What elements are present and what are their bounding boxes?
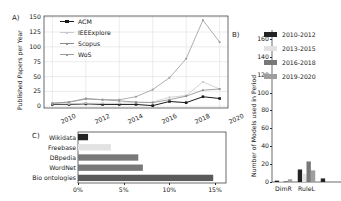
panel-c-tick-mark — [78, 183, 79, 185]
panel-c-x-tick: 15% — [203, 186, 227, 193]
panel-c-x-tick: 5% — [112, 186, 136, 193]
panel-a-y-tick: 50 — [24, 73, 41, 80]
panel-c-bar-chart: C) WikidataFreebaseDBpediaWordNetBio ont… — [0, 126, 232, 201]
panel-a-legend-label: WoS — [78, 51, 91, 58]
panel-b-tick-mark — [270, 146, 272, 147]
panel-b-tick-mark — [270, 39, 272, 40]
panel-b-y-tick: 140 — [252, 53, 269, 60]
panel-b-y-tick: 60 — [252, 124, 269, 131]
panel-a-line-chart: A) Published Papers per Year 02550751001… — [0, 0, 232, 128]
panel-b-y-tick: 100 — [252, 89, 269, 96]
panel-b-legend-swatch — [264, 74, 277, 79]
panel-c-tick-mark — [215, 183, 216, 185]
panel-c-category-label: WordNet — [2, 164, 76, 171]
panel-b-tick-mark — [270, 164, 272, 165]
panel-c-category-label: Bio ontologies — [2, 174, 76, 181]
panel-b-y-tick: 80 — [252, 106, 269, 113]
panel-a-y-axis-title: Published Papers per Year — [16, 30, 23, 110]
panel-a-legend-label: ACM — [78, 18, 92, 25]
panel-a-y-tick: 0 — [24, 102, 41, 109]
panel-c-category-label: Freebase — [2, 144, 76, 151]
panel-b-tick-mark — [270, 128, 272, 129]
panel-b-y-tick: 20 — [252, 160, 269, 167]
panel-b-legend-label: 2016-2018 — [282, 59, 316, 66]
panel-a-legend-label: IEEExplore — [78, 29, 111, 36]
panel-a-y-tick: 125 — [24, 28, 41, 35]
panel-b-tick-mark — [270, 93, 272, 94]
panel-a-legend-marker — [65, 20, 68, 23]
panel-a-legend-marker — [66, 43, 68, 45]
panel-b-legend-label: 2010-2012 — [282, 31, 316, 38]
panel-a-y-tick: 100 — [24, 43, 41, 50]
panel-b-tick-mark — [270, 57, 272, 58]
panel-b-tick-mark — [270, 110, 272, 111]
panel-c-category-label: Wikidata — [2, 134, 76, 141]
panel-b-tick-mark — [270, 182, 272, 183]
panel-c-tick-mark — [124, 183, 125, 185]
panel-c-category-label: DBpedia — [2, 154, 76, 161]
panel-b-legend-swatch — [264, 32, 277, 37]
panel-b-legend-swatch — [264, 46, 277, 51]
panel-a-label: A) — [12, 14, 20, 22]
panel-c-x-tick: 10% — [157, 186, 181, 193]
panel-a-legend-marker — [66, 54, 68, 56]
panel-b-legend-label: 2013-2015 — [282, 45, 316, 52]
panel-a-y-tick: 75 — [24, 58, 41, 65]
panel-b-legend-label: 2019-2020 — [282, 73, 316, 80]
panel-c-tick-mark — [169, 183, 170, 185]
panel-c-x-tick: 0% — [66, 186, 90, 193]
panel-b-legend-swatch — [264, 60, 277, 65]
panel-b-x-tick: RuleL — [293, 185, 321, 192]
panel-a-legend-marker — [66, 32, 68, 34]
panel-a-y-tick: 25 — [24, 87, 41, 94]
panel-a-y-tick: 150 — [24, 13, 41, 20]
panel-b-label: B) — [232, 31, 240, 39]
panel-b-y-tick: 0 — [252, 178, 269, 185]
panel-b-bar-chart: B) Number of Models used in Period 02040… — [228, 0, 341, 201]
figure-canvas: A) Published Papers per Year 02550751001… — [0, 0, 341, 201]
panel-a-legend-label: Scopus — [78, 40, 100, 47]
panel-b-y-tick: 40 — [252, 142, 269, 149]
